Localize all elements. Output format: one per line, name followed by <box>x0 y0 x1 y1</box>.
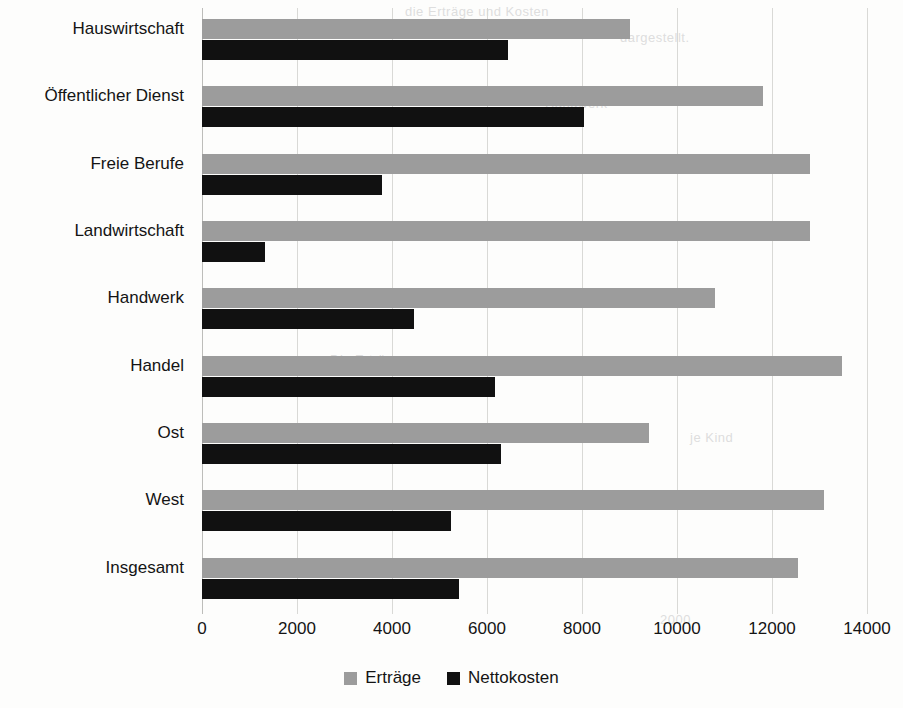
bar-row <box>202 277 867 344</box>
bar-row <box>202 8 867 75</box>
legend-item-nettokosten[interactable]: Nettokosten <box>447 668 559 688</box>
bar-ertrge-ffentlicherdienst <box>202 86 763 106</box>
plot-area <box>202 8 867 614</box>
x-tick-label-10000: 10000 <box>653 618 700 640</box>
category-label-insgesamt: Insgesamt <box>106 558 184 578</box>
category-label-handel: Handel <box>130 356 184 376</box>
bar-nettokosten-freieberufe <box>202 175 382 195</box>
bar-ertrge-handel <box>202 356 842 376</box>
category-label-handwerk: Handwerk <box>107 288 184 308</box>
legend-label: Nettokosten <box>468 668 559 688</box>
x-tick-label-8000: 8000 <box>563 618 601 640</box>
bar-nettokosten-handwerk <box>202 309 414 329</box>
x-tick-label-0: 0 <box>197 618 206 640</box>
bar-row <box>202 143 867 210</box>
bar-row <box>202 412 867 479</box>
bar-nettokosten-handel <box>202 377 495 397</box>
bar-row <box>202 75 867 142</box>
chart-legend: ErträgeNettokosten <box>0 668 903 688</box>
bar-row <box>202 210 867 277</box>
bar-ertrge-landwirtschaft <box>202 221 810 241</box>
legend-label: Erträge <box>365 668 421 688</box>
bar-ertrge-west <box>202 490 824 510</box>
category-label-hauswirtschaft: Hauswirtschaft <box>73 19 184 39</box>
category-axis-labels: HauswirtschaftÖffentlicher DienstFreie B… <box>0 8 192 614</box>
x-tick-label-2000: 2000 <box>278 618 316 640</box>
bar-ertrge-handwerk <box>202 288 715 308</box>
x-tick-label-12000: 12000 <box>748 618 795 640</box>
category-label-west: West <box>146 490 184 510</box>
gridline-14000 <box>867 8 868 614</box>
bar-nettokosten-insgesamt <box>202 579 459 599</box>
bar-chart: die Erträge und Kostendargestellt.Handwe… <box>0 0 903 708</box>
category-label-ost: Ost <box>158 423 184 443</box>
x-tick-label-4000: 4000 <box>373 618 411 640</box>
bar-nettokosten-ffentlicherdienst <box>202 107 584 127</box>
bar-nettokosten-hauswirtschaft <box>202 40 508 60</box>
bar-row <box>202 547 867 614</box>
bar-ertrge-insgesamt <box>202 558 798 578</box>
legend-swatch-icon-nettokosten <box>447 672 460 685</box>
bar-rows <box>202 8 867 614</box>
bar-nettokosten-ost <box>202 444 501 464</box>
x-axis-labels: 02000400060008000100001200014000 <box>202 614 867 644</box>
x-tick-label-14000: 14000 <box>843 618 890 640</box>
category-label-öffentlicherdienst: Öffentlicher Dienst <box>44 86 184 106</box>
legend-item-ertraege[interactable]: Erträge <box>344 668 421 688</box>
bar-row <box>202 479 867 546</box>
category-label-freieberufe: Freie Berufe <box>90 154 184 174</box>
bar-ertrge-freieberufe <box>202 154 810 174</box>
bar-nettokosten-west <box>202 511 451 531</box>
bar-ertrge-hauswirtschaft <box>202 19 630 39</box>
bar-row <box>202 345 867 412</box>
legend-swatch-icon-ertraege <box>344 672 357 685</box>
bar-nettokosten-landwirtschaft <box>202 242 265 262</box>
bar-ertrge-ost <box>202 423 649 443</box>
category-label-landwirtschaft: Landwirtschaft <box>74 221 184 241</box>
x-tick-label-6000: 6000 <box>468 618 506 640</box>
